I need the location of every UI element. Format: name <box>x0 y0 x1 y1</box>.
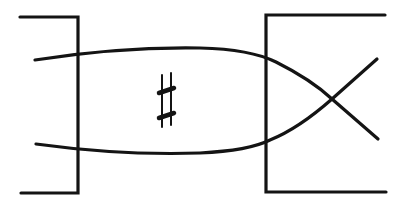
upper-strand <box>35 48 378 139</box>
lower-strand <box>36 59 377 153</box>
left-bracket <box>20 17 78 193</box>
tangle-diagram <box>0 0 406 206</box>
sharp-icon <box>159 73 174 127</box>
